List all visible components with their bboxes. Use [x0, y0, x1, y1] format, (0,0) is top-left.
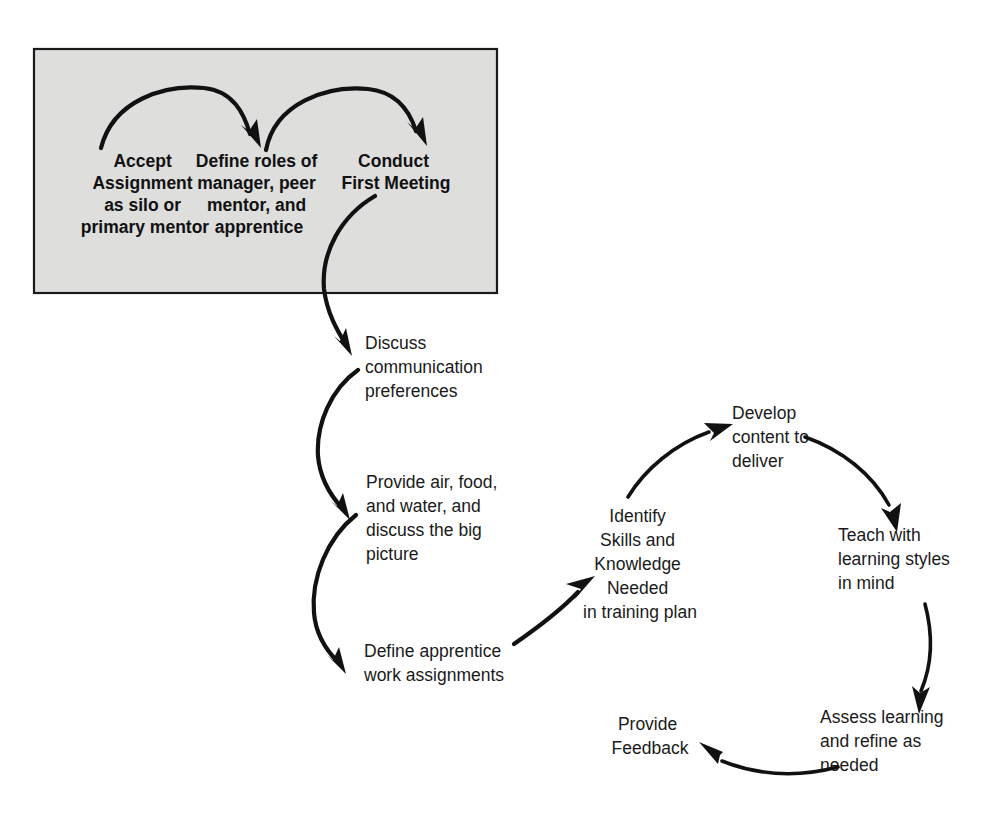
connector-provide-to-define-work [314, 515, 356, 674]
step-label-teach-learning-styles: Teach with learning styles in mind [838, 525, 955, 593]
diagram-canvas: Accept Assignment as silo or primary men… [0, 0, 1000, 826]
step-label-develop-content: Develop content to deliver [732, 403, 814, 471]
connector-assess-to-feedback [699, 742, 838, 774]
connector-identify-to-develop [628, 423, 733, 497]
arrowhead-assess-to-feedback [699, 742, 723, 764]
connector-discuss-to-provide [318, 370, 358, 520]
step-label-discuss-communication-preferences: Discuss communication preferences [365, 333, 488, 401]
step-label-define-work-assignments: Define apprentice work assignments [363, 641, 506, 685]
step-label-provide-air-food-water: Provide air, food, and water, and discus… [366, 472, 502, 564]
step-label-identify-skills-knowledge: Identify Skills and Knowledge Needed in … [583, 506, 697, 622]
step-label-assess-learning: Assess learning and refine as needed [820, 707, 948, 775]
connector-teach-to-assess [912, 604, 930, 714]
setup-phase-box [34, 49, 497, 293]
connector-develop-to-teach [805, 437, 901, 532]
step-label-provide-feedback: Provide Feedback [612, 714, 689, 758]
process-flow-diagram: Accept Assignment as silo or primary men… [0, 0, 1000, 826]
arrowhead-define-work-to-identify [566, 576, 595, 600]
